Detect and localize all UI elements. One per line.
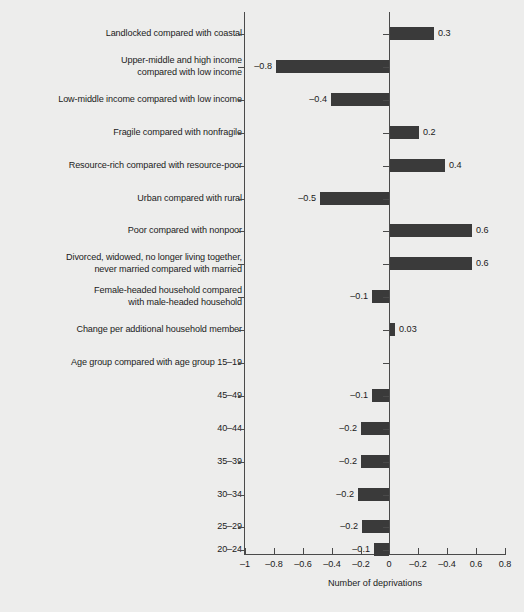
x-axis-tick bbox=[505, 548, 506, 554]
horizontal-bar-chart: Landlocked compared with coastal0.3Upper… bbox=[0, 0, 524, 612]
bar-value-label: –0.5 bbox=[292, 192, 316, 205]
bar-value-label: –0.1 bbox=[344, 290, 368, 303]
bar-row-label: Low-middle income compared with low inco… bbox=[12, 94, 242, 105]
bar-value-label: 0.3 bbox=[438, 27, 451, 40]
bar-row-label: Urban compared with rural bbox=[12, 193, 242, 204]
zero-reference-line bbox=[389, 12, 390, 554]
zero-axis-tick bbox=[383, 297, 389, 298]
y-axis-tick bbox=[238, 231, 244, 232]
bar bbox=[390, 257, 472, 270]
y-axis-tick bbox=[238, 133, 244, 134]
zero-axis-tick bbox=[383, 100, 389, 101]
y-axis-tick bbox=[238, 67, 244, 68]
plot-area: Landlocked compared with coastal0.3Upper… bbox=[0, 0, 524, 612]
zero-axis-tick bbox=[383, 495, 389, 496]
y-axis-tick bbox=[238, 550, 244, 551]
y-axis-tick bbox=[238, 330, 244, 331]
y-axis-tick bbox=[238, 264, 244, 265]
y-axis-tick bbox=[238, 297, 244, 298]
bar bbox=[390, 323, 395, 336]
bar-row-label: Landlocked compared with coastal bbox=[12, 28, 242, 39]
bar-row-label: 20–24 bbox=[12, 544, 242, 555]
bar-row-label: Upper-middle and high income compared wi… bbox=[12, 55, 242, 77]
y-axis-tick bbox=[238, 429, 244, 430]
x-axis-tick bbox=[303, 548, 304, 554]
y-axis-tick bbox=[238, 527, 244, 528]
bar-value-label: –0.1 bbox=[346, 543, 370, 556]
bar-row-label: Resource-rich compared with resource-poo… bbox=[12, 160, 242, 171]
bar bbox=[390, 27, 434, 40]
bar-value-label: –0.8 bbox=[248, 60, 272, 73]
x-axis-tick bbox=[245, 548, 246, 554]
bar-value-label: 0.2 bbox=[423, 126, 436, 139]
bar-row-label: Age group compared with age group 15–19 bbox=[12, 357, 242, 368]
zero-axis-tick bbox=[383, 166, 389, 167]
x-axis-tick bbox=[447, 548, 448, 554]
bar-value-label: 0.03 bbox=[399, 323, 417, 336]
bar-value-label: –0.4 bbox=[303, 93, 327, 106]
bar-row-label: 45–49 bbox=[12, 390, 242, 401]
y-axis-tick bbox=[238, 495, 244, 496]
x-axis-tick bbox=[361, 548, 362, 554]
y-axis-tick bbox=[238, 166, 244, 167]
bar-row-label: 40–44 bbox=[12, 423, 242, 434]
y-axis-tick bbox=[238, 396, 244, 397]
x-axis-title: Number of deprivations bbox=[244, 578, 506, 588]
bar-row-label: Female-headed household compared with ma… bbox=[12, 285, 242, 307]
bar-value-label: –0.2 bbox=[333, 455, 357, 468]
zero-axis-tick bbox=[383, 133, 389, 134]
bar bbox=[390, 159, 445, 172]
x-axis-tick bbox=[332, 548, 333, 554]
y-axis-tick bbox=[238, 199, 244, 200]
zero-axis-tick bbox=[383, 67, 389, 68]
y-axis-tick bbox=[238, 34, 244, 35]
y-axis-spine bbox=[244, 12, 245, 554]
y-axis-tick bbox=[238, 363, 244, 364]
zero-axis-tick bbox=[383, 550, 389, 551]
bar-value-label: –0.2 bbox=[334, 520, 358, 533]
zero-axis-tick bbox=[383, 527, 389, 528]
zero-axis-tick bbox=[383, 199, 389, 200]
x-axis-tick bbox=[418, 548, 419, 554]
bar-row-label: Divorced, widowed, no longer living toge… bbox=[12, 252, 242, 274]
zero-axis-tick bbox=[383, 330, 389, 331]
bar-row-label: 35–39 bbox=[12, 456, 242, 467]
zero-axis-tick bbox=[383, 396, 389, 397]
zero-axis-tick bbox=[383, 462, 389, 463]
bar bbox=[276, 60, 389, 73]
zero-axis-tick bbox=[383, 429, 389, 430]
bar-row-label: 25–29 bbox=[12, 521, 242, 532]
y-axis-tick bbox=[238, 462, 244, 463]
bar bbox=[390, 224, 472, 237]
zero-axis-tick bbox=[383, 363, 389, 364]
bar-value-label: 0.6 bbox=[476, 257, 489, 270]
bar-value-label: 0.6 bbox=[476, 224, 489, 237]
y-axis-tick bbox=[238, 100, 244, 101]
bar-value-label: –0.2 bbox=[333, 422, 357, 435]
bar bbox=[390, 126, 419, 139]
bar-row-label: 30–34 bbox=[12, 489, 242, 500]
bar-row-label: Poor compared with nonpoor bbox=[12, 225, 242, 236]
x-axis-tick-label: 0.8 bbox=[485, 558, 524, 570]
bar bbox=[331, 93, 389, 106]
bar-value-label: –0.2 bbox=[330, 488, 354, 501]
zero-axis-tick bbox=[383, 34, 389, 35]
zero-axis-tick bbox=[383, 264, 389, 265]
bar-value-label: –0.1 bbox=[344, 389, 368, 402]
x-axis-tick bbox=[389, 548, 390, 554]
bar-value-label: 0.4 bbox=[449, 159, 462, 172]
bar-row-label: Fragile compared with nonfragile bbox=[12, 127, 242, 138]
x-axis-tick bbox=[476, 548, 477, 554]
bar-row-label: Change per additional household member bbox=[12, 324, 242, 335]
zero-axis-tick bbox=[383, 231, 389, 232]
x-axis-tick bbox=[274, 548, 275, 554]
bar bbox=[320, 192, 389, 205]
